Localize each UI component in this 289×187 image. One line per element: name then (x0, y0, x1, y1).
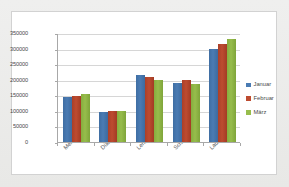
legend-label: Januar (254, 82, 272, 88)
bar[interactable] (182, 80, 191, 142)
legend-color-swatch (246, 110, 251, 115)
bar[interactable] (108, 111, 117, 142)
chart-legend[interactable]: JanuarFebruarMärz (246, 82, 274, 115)
legend-label: Februar (254, 96, 274, 102)
bar-group[interactable] (204, 34, 241, 142)
y-axis-tick-label: 150000 (10, 93, 28, 99)
bar[interactable] (227, 39, 236, 142)
bar[interactable] (136, 75, 145, 142)
legend-item[interactable]: Februar (246, 96, 274, 102)
x-axis-tick-mark (240, 143, 241, 146)
bar[interactable] (209, 49, 218, 142)
x-axis-tick-mark (94, 143, 95, 146)
bar[interactable] (154, 80, 163, 142)
bar[interactable] (218, 44, 227, 142)
x-axis-tick-mark (130, 143, 131, 146)
y-axis-tick-label: 350000 (10, 31, 28, 37)
y-axis-tick-label: 300000 (10, 47, 28, 53)
plot-area[interactable] (57, 34, 240, 143)
bar-group[interactable] (58, 34, 95, 142)
x-axis-tick-mark (203, 143, 204, 146)
bar-group[interactable] (95, 34, 132, 142)
y-axis-tick-label: 200000 (10, 78, 28, 84)
bar[interactable] (173, 83, 182, 142)
legend-color-swatch (246, 83, 251, 88)
legend-color-swatch (246, 96, 251, 101)
x-axis-tick-mark (57, 143, 58, 146)
bar[interactable] (117, 111, 126, 142)
legend-item[interactable]: Januar (246, 82, 274, 88)
bar[interactable] (145, 77, 154, 142)
bar[interactable] (63, 97, 72, 142)
bar-group[interactable] (168, 34, 205, 142)
bar-group[interactable] (131, 34, 168, 142)
bar[interactable] (72, 96, 81, 142)
y-axis-tick-label: 50000 (13, 124, 28, 130)
legend-item[interactable]: März (246, 110, 274, 116)
y-axis-tick-label: 100000 (10, 109, 28, 115)
legend-label: März (254, 110, 267, 116)
chart-frame[interactable]: 0500001000001500002000002500003000003500… (11, 11, 277, 175)
bar[interactable] (99, 112, 108, 142)
bar[interactable] (191, 84, 200, 142)
y-axis-tick-label: 0 (25, 140, 28, 146)
bar[interactable] (81, 94, 90, 142)
y-axis-tick-label: 250000 (10, 62, 28, 68)
x-axis-tick-mark (167, 143, 168, 146)
chart-widget[interactable]: 0500001000001500002000002500003000003500… (0, 0, 289, 187)
